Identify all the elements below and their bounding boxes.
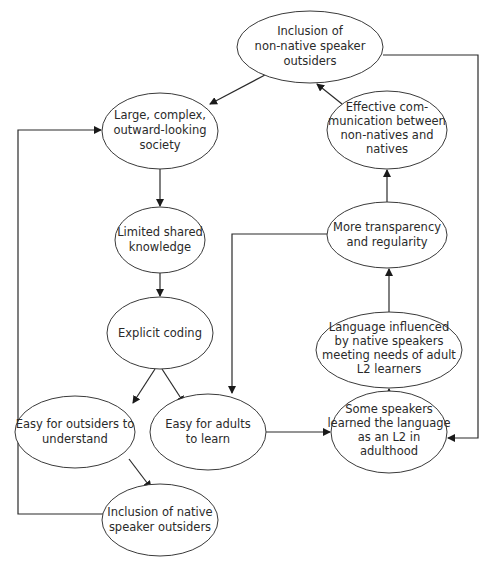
node-inclusion-non-native: Inclusion ofnon-native speakeroutsiders <box>237 11 383 83</box>
node-easy-outsiders: Easy for outsiders tounderstand <box>15 396 135 468</box>
node-label: Explicit coding <box>118 326 202 340</box>
edge-outsiders-to-native <box>129 459 151 488</box>
edge-transparency-to-adults <box>232 234 327 393</box>
node-label: Limited sharedknowledge <box>117 225 203 254</box>
node-inclusion-native: Inclusion of nativespeaker outsiders <box>102 484 218 556</box>
node-easy-adults: Easy for adultsto learn <box>150 394 266 470</box>
node-label: Inclusion of nativespeaker outsiders <box>107 505 212 534</box>
node-transparency: More transparencyand regularity <box>327 202 447 268</box>
node-label: More transparencyand regularity <box>333 220 441 249</box>
node-limited-knowledge: Limited sharedknowledge <box>115 207 205 273</box>
edge-communication-to-nonnative <box>317 84 342 104</box>
node-large-society: Large, complex,outward-lookingsociety <box>102 93 218 169</box>
node-effective-communication: Effective com-munication betweennon-nati… <box>327 91 447 169</box>
node-language-influenced: Language influencedby native speakersmee… <box>316 312 462 388</box>
edge-coding-to-outsiders <box>133 369 155 403</box>
node-explicit-coding: Explicit coding <box>107 297 213 369</box>
edge-nonnative-to-society <box>210 75 265 104</box>
node-some-speakers: Some speakerslearned the languageas an L… <box>327 391 450 473</box>
flowchart-canvas: Inclusion ofnon-native speakeroutsiders … <box>0 0 490 570</box>
